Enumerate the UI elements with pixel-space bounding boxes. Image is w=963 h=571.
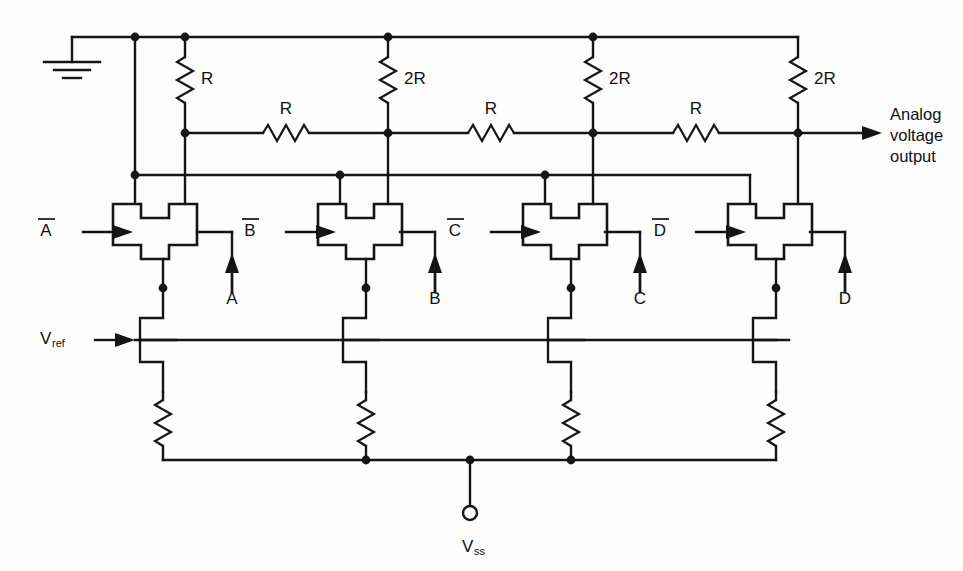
r2r-ladder-dac-schematic: R 2R 2R 2R R R R An bbox=[0, 0, 963, 571]
input-label-d-bar: D bbox=[652, 219, 669, 240]
junction-dot bbox=[466, 456, 475, 465]
resistor-vertical-3: 2R bbox=[585, 37, 631, 133]
top-ground-rail bbox=[72, 37, 798, 62]
transmission-gate-a bbox=[83, 133, 232, 292]
junction-dot bbox=[567, 456, 576, 465]
input-arrow-b: B bbox=[428, 253, 442, 308]
vref-label-text: V bbox=[40, 329, 52, 348]
vref-label-subscript: ref bbox=[52, 337, 66, 349]
vss-terminal: V ss bbox=[462, 460, 486, 557]
input-arrow-a: A bbox=[225, 253, 239, 308]
analog-output-terminal: Analog voltage output bbox=[798, 105, 943, 165]
vref-rail bbox=[95, 333, 776, 347]
resistor-pulldown-3 bbox=[563, 392, 579, 460]
input-arrow-c: C bbox=[633, 253, 647, 308]
vss-label-subscript: ss bbox=[474, 545, 486, 557]
mosfet-vref-a bbox=[140, 290, 176, 392]
resistor-vertical-2: 2R bbox=[380, 37, 426, 133]
input-label-d-bar-text: D bbox=[654, 221, 666, 240]
input-label-b: B bbox=[429, 289, 440, 308]
input-label-c: C bbox=[634, 289, 646, 308]
input-label-d: D bbox=[839, 289, 851, 308]
input-label-b-bar-text: B bbox=[244, 221, 255, 240]
junction-dot bbox=[794, 129, 803, 138]
ladder-series-rail: R R R bbox=[185, 99, 798, 141]
junction-dot bbox=[181, 129, 190, 138]
resistor-label-series-2: R bbox=[485, 99, 497, 118]
resistor-pulldown-4 bbox=[768, 392, 784, 460]
mosfet-vref-d bbox=[753, 290, 789, 392]
resistor-pulldown-2 bbox=[358, 392, 374, 460]
junction-dot bbox=[589, 129, 598, 138]
junction-dot bbox=[384, 33, 393, 42]
resistor-pulldown-1 bbox=[155, 392, 171, 460]
junction-dot bbox=[362, 456, 371, 465]
input-label-a-bar: A bbox=[38, 219, 55, 240]
resistor-label-r3: 2R bbox=[609, 69, 631, 88]
junction-dot bbox=[541, 171, 550, 180]
input-label-a: A bbox=[226, 289, 238, 308]
transmission-gate-d bbox=[696, 133, 845, 292]
resistor-vertical-1: R bbox=[177, 37, 213, 133]
input-label-c-bar-text: C bbox=[449, 221, 461, 240]
mosfet-vref-b bbox=[343, 290, 379, 392]
analog-output-label-line2: voltage bbox=[890, 126, 943, 144]
vss-label-text: V bbox=[462, 537, 474, 556]
junction-dot bbox=[384, 129, 393, 138]
transmission-gate-c bbox=[491, 133, 640, 292]
ground-icon bbox=[44, 62, 100, 78]
resistor-label-series-3: R bbox=[690, 99, 702, 118]
analog-output-label-line1: Analog bbox=[890, 105, 941, 123]
input-label-c-bar: C bbox=[447, 219, 464, 240]
junction-dot bbox=[131, 171, 140, 180]
circuit-diagram-canvas: R 2R 2R 2R R R R An bbox=[0, 0, 963, 571]
junction-dot bbox=[181, 33, 190, 42]
resistor-label-r1: R bbox=[201, 69, 213, 88]
gate-control-rail bbox=[135, 37, 750, 204]
junction-dot bbox=[131, 33, 140, 42]
resistor-vertical-4: 2R bbox=[790, 37, 836, 133]
analog-output-label-line3: output bbox=[890, 147, 936, 165]
mosfet-vref-c bbox=[548, 290, 584, 392]
input-arrow-d: D bbox=[838, 253, 852, 308]
junction-dot bbox=[589, 33, 598, 42]
vref-label: V ref bbox=[40, 329, 66, 349]
resistor-label-r2: 2R bbox=[404, 69, 426, 88]
input-label-b-bar: B bbox=[242, 219, 259, 240]
resistor-label-series-1: R bbox=[280, 99, 292, 118]
transmission-gate-b bbox=[286, 133, 435, 292]
resistor-label-r4: 2R bbox=[814, 69, 836, 88]
junction-dot bbox=[336, 171, 345, 180]
input-label-a-bar-text: A bbox=[40, 221, 52, 240]
